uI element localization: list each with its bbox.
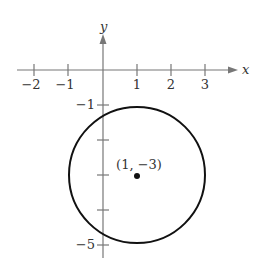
circle-plot: x y −2 −1 1 2 3 −1 −5 (1, −3) (0, 0, 262, 279)
y-axis-label: y (99, 19, 108, 34)
x-tick-label: 3 (201, 77, 209, 92)
y-axis-arrow-icon (100, 34, 107, 44)
x-tick-label: 1 (133, 77, 141, 92)
x-axis-arrow-icon (228, 67, 238, 74)
x-tick-label: −1 (55, 77, 74, 92)
center-point-label: (1, −3) (116, 157, 162, 172)
center-point (134, 173, 140, 179)
x-tick-label: 2 (167, 77, 175, 92)
x-axis-label: x (242, 62, 250, 77)
x-tick-label: −2 (21, 77, 40, 92)
y-tick-label-minus-5: −5 (76, 237, 95, 252)
y-tick-label-minus-1: −1 (76, 97, 95, 112)
